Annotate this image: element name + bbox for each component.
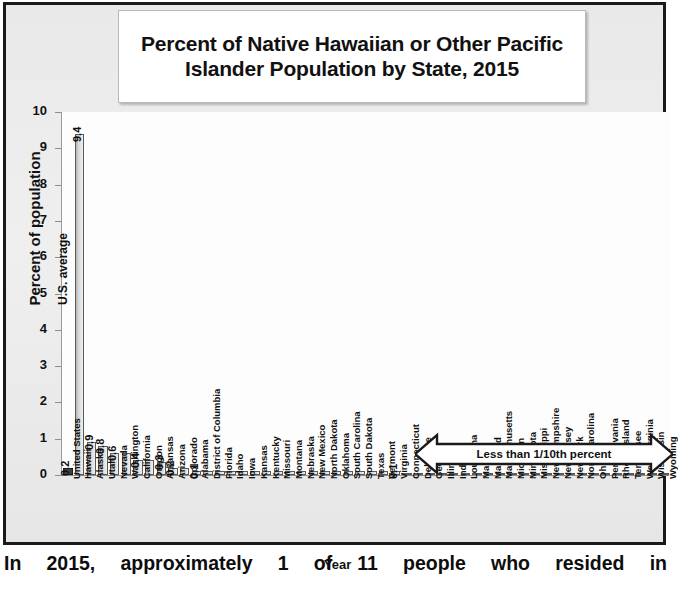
x-tick-label: Arizona [176,444,187,479]
x-tick-label: California [141,435,152,479]
y-tick-label: 1 [17,430,47,445]
y-tick-label: 0 [17,466,47,481]
bar-value-label: 0.9 [83,435,95,450]
less-than-tenth-arrow: Less than 1/10th percent [415,432,673,476]
bar-value-label: 0.2 [59,460,71,475]
x-tick-label: Florida [223,447,234,479]
y-tick-label: 6 [17,248,47,263]
y-tick-label: 2 [17,393,47,408]
x-tick-label: Texas [375,453,386,479]
bar-value-label: 0.1 [188,464,200,479]
y-tick-label: 3 [17,357,47,372]
x-tick-label: United States [71,418,82,479]
x-tick-label: South Carolina [351,411,362,479]
bar-value-label: 0.4 [129,453,141,468]
bar-value-label: 0.3 [153,455,165,470]
x-tick-label: Oklahoma [340,433,351,479]
chart-title-box: Percent of Native Hawaiian or Other Paci… [118,10,586,103]
x-tick-label: Virginia [398,444,409,479]
y-tick-label: 5 [17,285,47,300]
double-arrow-icon [415,432,673,476]
x-tick-label: Kentucky [270,436,281,479]
x-tick-label: District of Columbia [211,389,222,479]
page-title: Percent of Native Hawaiian or Other Paci… [125,32,579,82]
x-tick-label: Idaho [234,454,245,479]
x-tick-label: Utah [106,458,117,479]
y-tick-label: 8 [17,176,47,191]
bar-value-label: 0.1 [387,464,399,479]
figure-caption: In 2015, approximately 1 of 11 people wh… [2,551,669,575]
x-tick-label: North Dakota [328,419,339,479]
x-tick-label: Nevada [118,445,129,479]
x-tick-label: Iowa [246,458,257,479]
x-tick-label: Kansas [258,445,269,479]
y-tick-label: 9 [17,139,47,154]
x-tick-label: Missouri [281,440,292,479]
x-tick-label: Alabama [199,439,210,479]
x-tick-label: Hawaii [82,449,93,479]
x-tick-label: Nebraska [305,436,316,479]
x-tick-label: Montana [293,440,304,479]
x-tick-label: New Mexico [316,425,327,479]
y-tick-label: 7 [17,212,47,227]
x-tick-label: South Dakota [363,418,374,479]
bar-value-label: 0.8 [94,439,106,454]
bar-value-label: 0.6 [106,446,118,461]
chart-frame: Percent of Native Hawaiian or Other Paci… [3,2,666,545]
bar-value-label: 0.2 [164,460,176,475]
bar-value-label: 9.4 [71,126,83,141]
y-tick-label: 4 [17,321,47,336]
us-average-annotation: U.S. average [56,233,70,305]
y-tick-label: 10 [17,103,47,118]
